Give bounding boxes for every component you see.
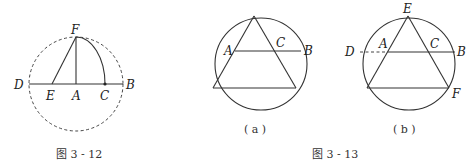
caption-b: ( b ): [393, 123, 416, 136]
figure-3-12: F D E A C B 图 3 - 12: [13, 23, 135, 161]
label-e: E: [402, 2, 412, 16]
label-b: B: [456, 45, 466, 59]
point-c: [103, 82, 106, 85]
triangle-right-side: [254, 16, 296, 88]
figure-3-13b: E D A C B F ( b ): [344, 2, 466, 136]
label-a: A: [71, 89, 81, 103]
label-b: B: [125, 78, 135, 92]
label-f: F: [451, 87, 461, 101]
label-e: E: [45, 89, 55, 103]
figure-3-13a: A C B ( a ): [213, 16, 313, 136]
circle: [215, 18, 307, 110]
label-c: C: [430, 37, 439, 51]
label-f: F: [70, 23, 80, 37]
label-d: D: [13, 78, 24, 92]
arc-fc: [76, 37, 105, 84]
diagram-canvas: F D E A C B 图 3 - 12 A C B ( a ) E D A C…: [0, 0, 475, 165]
label-d: D: [344, 45, 355, 59]
caption-3-12: 图 3 - 12: [56, 148, 102, 161]
caption-3-13: 图 3 - 13: [312, 148, 358, 161]
label-b: B: [303, 44, 313, 58]
label-a: A: [223, 44, 233, 58]
label-c: C: [100, 89, 109, 103]
label-a: A: [378, 37, 388, 51]
segment-fe: [52, 37, 76, 84]
caption-a: ( a ): [244, 123, 266, 136]
circle: [363, 18, 455, 110]
label-c: C: [276, 36, 285, 50]
